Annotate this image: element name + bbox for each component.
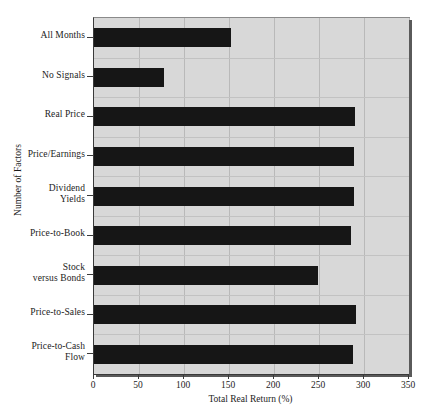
y-axis-tick: [87, 37, 93, 38]
x-axis-tick: [93, 374, 94, 379]
x-axis-title: Total Real Return (%): [93, 394, 408, 404]
x-axis-tick: [183, 374, 184, 379]
y-axis-tick: [87, 155, 93, 156]
y-axis-tick-label: Price-to-Sales: [30, 307, 85, 318]
bar-chart: Number of Factors Total Real Return (%) …: [0, 0, 432, 413]
bar: [94, 107, 355, 126]
y-axis-tick: [87, 314, 93, 315]
bar: [94, 28, 231, 47]
plot-border-shadow-right: [409, 20, 412, 376]
y-axis-tick: [87, 195, 93, 196]
y-axis-tick-label: Dividend Yields: [49, 183, 85, 205]
y-axis-tick-label: Price/Earnings: [28, 149, 85, 160]
x-axis-tick-label: 150: [208, 380, 248, 390]
y-axis-tick-label: Price-to-Book: [30, 228, 85, 239]
plot-area: [93, 17, 410, 375]
y-axis-title: Number of Factors: [13, 115, 23, 245]
bar-series: [94, 18, 409, 374]
x-axis-tick-label: 50: [118, 380, 158, 390]
x-axis-tick: [273, 374, 274, 379]
x-axis-tick-label: 200: [253, 380, 293, 390]
bar: [94, 187, 354, 206]
x-axis-tick-label: 300: [343, 380, 383, 390]
x-axis-tick-label: 250: [298, 380, 338, 390]
y-axis-tick: [87, 76, 93, 77]
y-axis-tick-label: No Signals: [42, 70, 85, 81]
y-axis-tick: [87, 116, 93, 117]
y-axis-tick-label: Real Price: [45, 109, 85, 120]
bar: [94, 305, 356, 324]
bar: [94, 226, 351, 245]
bar: [94, 68, 164, 87]
y-axis-tick: [87, 353, 93, 354]
y-axis-tick-label: All Months: [40, 30, 85, 41]
plot-border-shadow-bottom: [96, 375, 412, 377]
x-axis-tick-label: 100: [163, 380, 203, 390]
x-axis-tick: [318, 374, 319, 379]
y-axis-tick: [87, 235, 93, 236]
x-axis-tick: [408, 374, 409, 379]
bar: [94, 147, 354, 166]
bar: [94, 266, 318, 285]
x-axis-tick: [228, 374, 229, 379]
x-axis-tick-label: 0: [73, 380, 113, 390]
x-axis-tick: [363, 374, 364, 379]
y-axis-tick-label: Price-to-Cash Flow: [31, 341, 85, 363]
bar: [94, 345, 353, 364]
y-axis-tick: [87, 274, 93, 275]
x-axis-tick-label: 350: [388, 380, 428, 390]
x-axis-tick: [138, 374, 139, 379]
y-axis-tick-label: Stock versus Bonds: [33, 262, 85, 284]
